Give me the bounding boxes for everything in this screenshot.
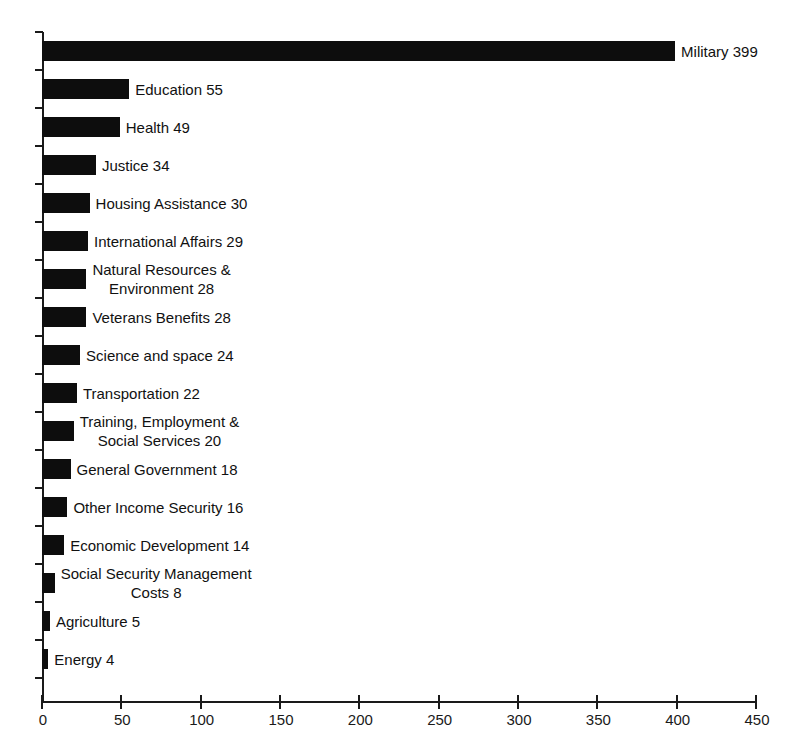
- bar-value-label: Economic Development 14: [70, 526, 249, 564]
- bar[interactable]: [42, 117, 120, 137]
- bar-value-label-line: Training, Employment &: [80, 412, 240, 431]
- x-axis-tick: [200, 695, 202, 709]
- bar-value-label-line: Science and space 24: [86, 346, 234, 365]
- bar-value-label: Justice 34: [102, 146, 170, 184]
- bar-row[interactable]: Education 55: [42, 70, 788, 108]
- bar[interactable]: [42, 383, 77, 403]
- bar-row[interactable]: Other Income Security 16: [42, 488, 788, 526]
- x-axis-tick: [279, 695, 281, 709]
- bar-value-label-line: Costs 8: [61, 583, 252, 602]
- bar[interactable]: [42, 41, 675, 61]
- x-axis-tick-label: 150: [251, 711, 311, 729]
- x-axis-tick: [120, 695, 122, 709]
- bar-row[interactable]: Natural Resources &Environment 28: [42, 260, 788, 298]
- bar-value-label: Housing Assistance 30: [96, 184, 248, 222]
- bar-row[interactable]: Energy 4: [42, 640, 788, 678]
- x-axis-tick: [517, 695, 519, 709]
- x-axis-tick-label: 250: [410, 711, 470, 729]
- bar-value-label-line: Justice 34: [102, 156, 170, 175]
- bar-value-label: Military 399: [681, 32, 758, 70]
- bar-value-label: Transportation 22: [83, 374, 200, 412]
- bar-value-label: General Government 18: [77, 450, 238, 488]
- bar-value-label-line: Other Income Security 16: [73, 498, 243, 517]
- x-axis-tick-label: 100: [172, 711, 232, 729]
- bar-row[interactable]: Veterans Benefits 28: [42, 298, 788, 336]
- bar-value-label-line: Education 55: [135, 80, 223, 99]
- bar-value-label: Science and space 24: [86, 336, 234, 374]
- bar-value-label-line: Military 399: [681, 42, 758, 61]
- bar-value-label-line: Agriculture 5: [56, 612, 140, 631]
- bar-row[interactable]: Housing Assistance 30: [42, 184, 788, 222]
- bar[interactable]: [42, 611, 50, 631]
- x-axis-tick-label: 400: [648, 711, 708, 729]
- x-axis-tick-label: 450: [727, 711, 787, 729]
- bar[interactable]: [42, 573, 55, 593]
- bar-value-label-line: Health 49: [126, 118, 190, 137]
- bar-value-label-line: Social Services 20: [80, 431, 240, 450]
- plot-area: 050100150200250300350400450 Military 399…: [0, 0, 788, 746]
- x-axis-tick-label: 0: [13, 711, 73, 729]
- x-axis-tick-label: 300: [489, 711, 549, 729]
- bar-value-label-line: Natural Resources &: [92, 260, 230, 279]
- bar-row[interactable]: Social Security ManagementCosts 8: [42, 564, 788, 602]
- bar-row[interactable]: Health 49: [42, 108, 788, 146]
- x-axis-tick: [41, 695, 43, 709]
- bar[interactable]: [42, 459, 71, 479]
- bar-value-label-line: Transportation 22: [83, 384, 200, 403]
- bar[interactable]: [42, 649, 48, 669]
- bar-value-label-line: Environment 28: [92, 279, 230, 298]
- bar-chart: 050100150200250300350400450 Military 399…: [0, 0, 788, 746]
- bar[interactable]: [42, 79, 129, 99]
- bar[interactable]: [42, 307, 86, 327]
- bar-row[interactable]: Transportation 22: [42, 374, 788, 412]
- x-axis-tick: [596, 695, 598, 709]
- x-axis-tick: [755, 695, 757, 709]
- bar-value-label-line: General Government 18: [77, 460, 238, 479]
- bar-value-label: International Affairs 29: [94, 222, 243, 260]
- bar-row[interactable]: Agriculture 5: [42, 602, 788, 640]
- bar-value-label: Energy 4: [54, 640, 114, 678]
- x-axis-tick: [438, 695, 440, 709]
- bar[interactable]: [42, 269, 86, 289]
- bar-value-label-line: Veterans Benefits 28: [92, 308, 230, 327]
- bar[interactable]: [42, 497, 67, 517]
- bar-value-label-line: Energy 4: [54, 650, 114, 669]
- bar-value-label: Veterans Benefits 28: [92, 298, 230, 336]
- x-axis-tick-label: 50: [92, 711, 152, 729]
- x-axis-tick-label: 350: [568, 711, 628, 729]
- bar-row[interactable]: General Government 18: [42, 450, 788, 488]
- bar-row[interactable]: Economic Development 14: [42, 526, 788, 564]
- bar-value-label: Social Security ManagementCosts 8: [61, 564, 252, 602]
- bar-row[interactable]: International Affairs 29: [42, 222, 788, 260]
- bar[interactable]: [42, 155, 96, 175]
- x-axis-tick-label: 200: [330, 711, 390, 729]
- bar-row[interactable]: Military 399: [42, 32, 788, 70]
- bar-value-label: Other Income Security 16: [73, 488, 243, 526]
- bar-row[interactable]: Science and space 24: [42, 336, 788, 374]
- bar-row[interactable]: Justice 34: [42, 146, 788, 184]
- bar-value-label: Natural Resources &Environment 28: [92, 260, 230, 298]
- bar-value-label-line: Economic Development 14: [70, 536, 249, 555]
- bar-value-label-line: Housing Assistance 30: [96, 194, 248, 213]
- x-axis-tick: [358, 695, 360, 709]
- bar-value-label-line: Social Security Management: [61, 564, 252, 583]
- bar[interactable]: [42, 345, 80, 365]
- bar-value-label: Education 55: [135, 70, 223, 108]
- bar-value-label: Health 49: [126, 108, 190, 146]
- bar[interactable]: [42, 231, 88, 251]
- value-axis-line: [42, 701, 756, 703]
- bar-value-label-line: International Affairs 29: [94, 232, 243, 251]
- bar-row[interactable]: Training, Employment &Social Services 20: [42, 412, 788, 450]
- bar-value-label: Agriculture 5: [56, 602, 140, 640]
- bar[interactable]: [42, 535, 64, 555]
- bar[interactable]: [42, 193, 90, 213]
- bar-value-label: Training, Employment &Social Services 20: [80, 412, 240, 450]
- x-axis-tick: [676, 695, 678, 709]
- bar[interactable]: [42, 421, 74, 441]
